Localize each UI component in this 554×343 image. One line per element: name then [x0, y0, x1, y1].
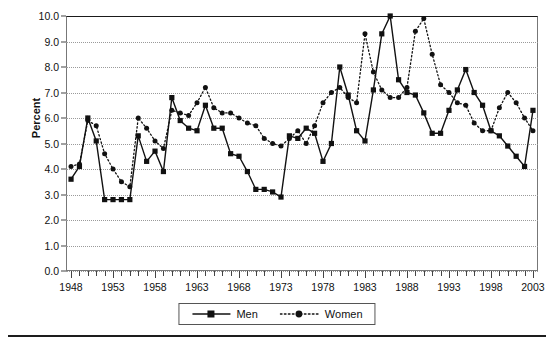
- data-point-marker: [102, 197, 107, 202]
- data-point-marker: [253, 187, 258, 192]
- data-point-marker: [430, 131, 435, 136]
- data-point-marker: [186, 126, 191, 131]
- data-point-marker: [362, 31, 367, 36]
- data-point-marker: [211, 105, 216, 110]
- data-point-marker: [119, 179, 124, 184]
- x-tick-mark-minor: [180, 271, 181, 276]
- data-point-marker: [203, 85, 208, 90]
- data-point-marker: [178, 110, 183, 115]
- x-tick-mark-minor: [382, 271, 383, 276]
- data-point-marker: [119, 197, 124, 202]
- x-tick-mark-minor: [399, 271, 400, 276]
- data-point-marker: [270, 141, 275, 146]
- data-point-marker: [379, 87, 384, 92]
- data-point-marker: [152, 149, 157, 154]
- legend-item-men: Men: [191, 308, 257, 320]
- data-point-marker: [472, 90, 477, 95]
- x-tick-mark-major: [113, 271, 114, 278]
- data-point-marker: [480, 103, 485, 108]
- x-tick-mark-minor: [508, 271, 509, 276]
- data-point-marker: [321, 100, 326, 105]
- data-point-marker: [236, 154, 241, 159]
- y-tick-label: 10.0: [39, 10, 59, 22]
- data-point-marker: [127, 184, 132, 189]
- chart-legend: Men Women: [178, 303, 375, 325]
- x-tick-label: 1998: [479, 281, 502, 293]
- y-axis-title: Percent: [30, 88, 42, 148]
- data-point-marker: [228, 110, 233, 115]
- x-tick-mark-minor: [214, 271, 215, 276]
- y-tick-label: 8.0: [44, 61, 59, 73]
- data-point-marker: [413, 29, 418, 34]
- data-point-marker: [153, 138, 158, 143]
- gridline: [66, 271, 538, 272]
- x-tick-mark-minor: [340, 271, 341, 276]
- data-point-marker: [421, 16, 426, 21]
- x-tick-label: 1983: [353, 281, 376, 293]
- data-point-marker: [514, 100, 519, 105]
- data-point-marker: [329, 90, 334, 95]
- data-point-marker: [472, 121, 477, 126]
- x-tick-mark-minor: [205, 271, 206, 276]
- x-tick-mark-minor: [415, 271, 416, 276]
- chart-figure: Percent 0.01.02.03.04.05.06.07.08.09.010…: [0, 0, 554, 343]
- data-point-marker: [304, 141, 309, 146]
- x-tick-mark-minor: [424, 271, 425, 276]
- x-tick-mark-minor: [298, 271, 299, 276]
- data-point-marker: [111, 167, 116, 172]
- data-point-marker: [186, 113, 191, 118]
- x-tick-mark-major: [239, 271, 240, 278]
- data-point-marker: [530, 108, 535, 113]
- data-point-marker: [169, 108, 174, 113]
- bottom-rule-divider: [8, 335, 546, 337]
- x-tick-mark-minor: [130, 271, 131, 276]
- x-tick-label: 1958: [143, 281, 166, 293]
- data-point-marker: [237, 116, 242, 121]
- data-point-marker: [463, 103, 468, 108]
- data-point-marker: [102, 151, 107, 156]
- series-men: [68, 13, 535, 202]
- x-tick-mark-minor: [466, 271, 467, 276]
- x-tick-mark-minor: [172, 271, 173, 276]
- x-tick-mark-minor: [432, 271, 433, 276]
- x-tick-mark-minor: [256, 271, 257, 276]
- data-point-marker: [262, 187, 267, 192]
- x-tick-mark-minor: [441, 271, 442, 276]
- x-tick-label: 1948: [59, 281, 82, 293]
- x-tick-mark-minor: [373, 271, 374, 276]
- data-point-marker: [304, 126, 309, 131]
- data-point-marker: [346, 95, 351, 100]
- legend-swatch-men-icon: [191, 308, 231, 320]
- data-point-marker: [69, 164, 74, 169]
- data-point-marker: [169, 95, 174, 100]
- data-point-marker: [388, 13, 393, 18]
- series-line: [71, 16, 533, 200]
- data-point-marker: [220, 110, 225, 115]
- x-tick-mark-minor: [499, 271, 500, 276]
- x-tick-mark-minor: [306, 271, 307, 276]
- data-point-marker: [463, 67, 468, 72]
- data-point-marker: [320, 159, 325, 164]
- data-point-marker: [430, 52, 435, 57]
- data-point-marker: [413, 92, 418, 97]
- x-tick-label: 1988: [395, 281, 418, 293]
- data-point-marker: [295, 136, 300, 141]
- x-tick-label: 1973: [269, 281, 292, 293]
- x-tick-mark-minor: [457, 271, 458, 276]
- data-point-marker: [379, 31, 384, 36]
- series-women: [69, 16, 536, 189]
- data-point-marker: [194, 128, 199, 133]
- x-tick-mark-minor: [331, 271, 332, 276]
- data-point-marker: [94, 123, 99, 128]
- x-tick-mark-minor: [264, 271, 265, 276]
- x-tick-mark-minor: [147, 271, 148, 276]
- legend-label-men: Men: [236, 308, 257, 320]
- data-point-marker: [480, 128, 485, 133]
- data-point-marker: [455, 100, 460, 105]
- y-tick-label: 6.0: [44, 112, 59, 124]
- x-tick-mark-major: [449, 271, 450, 278]
- data-point-marker: [488, 128, 493, 133]
- data-point-marker: [287, 136, 292, 141]
- data-point-marker: [497, 133, 502, 138]
- data-point-marker: [455, 87, 460, 92]
